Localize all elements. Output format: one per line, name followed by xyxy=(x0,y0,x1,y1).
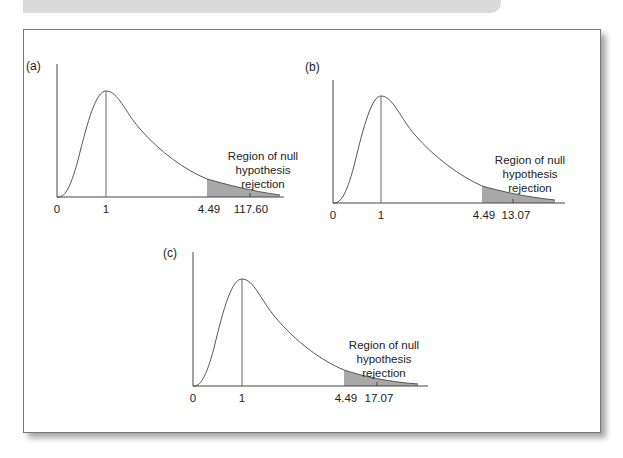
region-label-line2: hypothesis xyxy=(236,164,291,176)
region-label-line2: hypothesis xyxy=(503,168,558,180)
tick-label-critical: 4.49 xyxy=(335,392,357,404)
region-label-line1: Region of null xyxy=(495,154,565,166)
region-label-line2: hypothesis xyxy=(357,353,412,365)
tick-label-critical: 4.49 xyxy=(198,203,220,215)
panel-label: (b) xyxy=(305,60,320,74)
tick-label-1: 1 xyxy=(103,203,109,215)
tick-label-1: 1 xyxy=(378,209,384,221)
region-label-line3: rejection xyxy=(508,182,551,194)
panel-b: (b) 0 1 4.49 13.07 Region of null hypoth… xyxy=(305,60,565,221)
panel-label: (a) xyxy=(26,59,41,73)
tick-label-statistic: 13.07 xyxy=(502,209,531,221)
tick-label-statistic: 117.60 xyxy=(234,203,268,215)
tick-label-1: 1 xyxy=(239,392,245,404)
region-label-line1: Region of null xyxy=(228,150,298,162)
tick-label-0: 0 xyxy=(330,209,336,221)
figure-plots: (a) 0 1 4.49 117.60 Region of null hypot… xyxy=(0,0,623,458)
panel-a: (a) 0 1 4.49 117.60 Region of null hypot… xyxy=(26,59,298,215)
region-label-line3: rejection xyxy=(241,178,284,190)
tick-label-0: 0 xyxy=(190,392,196,404)
panel-c: (c) 0 1 4.49 17.07 Region of null hypoth… xyxy=(163,246,428,404)
region-label-line3: rejection xyxy=(362,367,405,379)
panel-label: (c) xyxy=(163,246,177,260)
tick-label-0: 0 xyxy=(54,203,60,215)
tick-label-statistic: 17.07 xyxy=(365,392,394,404)
tick-label-critical: 4.49 xyxy=(473,209,495,221)
region-label-line1: Region of null xyxy=(349,339,419,351)
